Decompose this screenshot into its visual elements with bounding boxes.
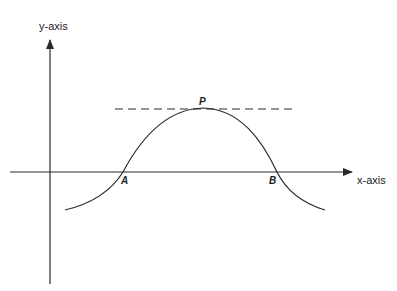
point-p-label: P (199, 96, 206, 107)
y-axis-label: y-axis (39, 20, 68, 32)
point-b-label: B (269, 175, 276, 186)
point-a-label: A (120, 175, 128, 186)
bell-curve (65, 108, 325, 210)
x-axis-label: x-axis (357, 174, 386, 186)
graph-diagram: y-axis x-axis P A B (0, 0, 397, 291)
